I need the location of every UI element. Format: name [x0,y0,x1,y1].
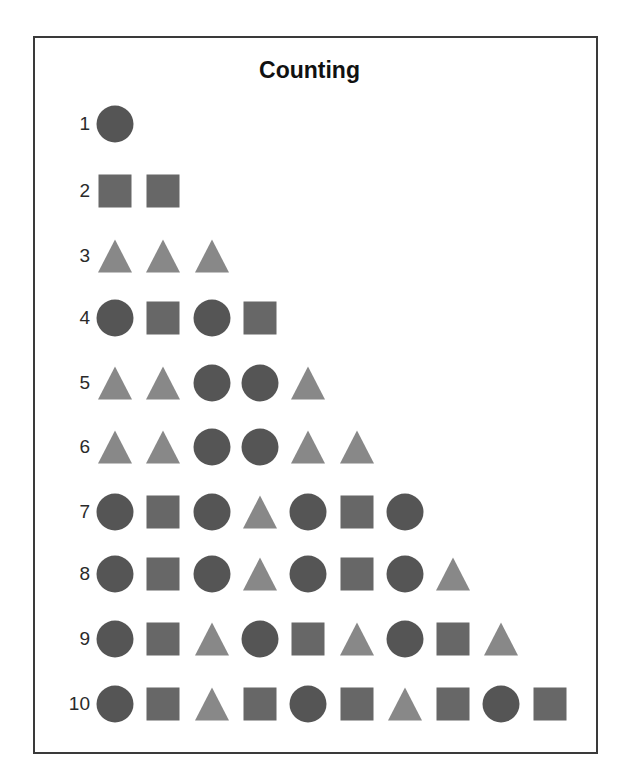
count-row-1: 1 [0,104,619,144]
square-icon [433,684,473,724]
triangle-icon [240,492,280,532]
row-number-label: 2 [79,180,90,202]
circle-icon [192,298,232,338]
square-icon [143,684,183,724]
row-number-label: 9 [79,628,90,650]
square-icon [143,171,183,211]
circle-icon [192,492,232,532]
circle-icon [95,684,135,724]
circle-icon [288,554,328,594]
triangle-icon [192,619,232,659]
count-row-9: 9 [0,619,619,659]
triangle-icon [240,554,280,594]
row-number-label: 7 [79,501,90,523]
count-row-3: 3 [0,236,619,276]
triangle-icon [433,554,473,594]
count-row-5: 5 [0,363,619,403]
circle-icon [288,492,328,532]
square-icon [530,684,570,724]
diagram-title: Counting [0,56,619,84]
circle-icon [288,684,328,724]
row-number-label: 6 [79,436,90,458]
square-icon [143,619,183,659]
triangle-icon [192,684,232,724]
square-icon [337,684,377,724]
triangle-icon [95,236,135,276]
circle-icon [385,492,425,532]
circle-icon [95,104,135,144]
row-number-label: 4 [79,307,90,329]
triangle-icon [143,236,183,276]
circle-icon [240,363,280,403]
square-icon [143,554,183,594]
row-number-label: 5 [79,372,90,394]
triangle-icon [95,363,135,403]
row-number-label: 3 [79,245,90,267]
triangle-icon [288,363,328,403]
triangle-icon [143,427,183,467]
circle-icon [192,427,232,467]
count-row-4: 4 [0,298,619,338]
triangle-icon [95,427,135,467]
count-row-8: 8 [0,554,619,594]
circle-icon [95,554,135,594]
triangle-icon [288,427,328,467]
square-icon [143,298,183,338]
circle-icon [192,554,232,594]
circle-icon [192,363,232,403]
square-icon [433,619,473,659]
triangle-icon [481,619,521,659]
triangle-icon [385,684,425,724]
count-row-7: 7 [0,492,619,532]
row-number-label: 8 [79,563,90,585]
row-number-label: 10 [69,693,90,715]
square-icon [240,298,280,338]
square-icon [337,492,377,532]
square-icon [240,684,280,724]
triangle-icon [337,619,377,659]
square-icon [337,554,377,594]
circle-icon [240,619,280,659]
circle-icon [95,492,135,532]
circle-icon [95,298,135,338]
circle-icon [240,427,280,467]
circle-icon [95,619,135,659]
row-number-label: 1 [79,113,90,135]
count-row-2: 2 [0,171,619,211]
circle-icon [385,619,425,659]
count-row-10: 10 [0,684,619,724]
triangle-icon [192,236,232,276]
square-icon [143,492,183,532]
square-icon [95,171,135,211]
square-icon [288,619,328,659]
circle-icon [481,684,521,724]
triangle-icon [143,363,183,403]
count-row-6: 6 [0,427,619,467]
triangle-icon [337,427,377,467]
circle-icon [385,554,425,594]
